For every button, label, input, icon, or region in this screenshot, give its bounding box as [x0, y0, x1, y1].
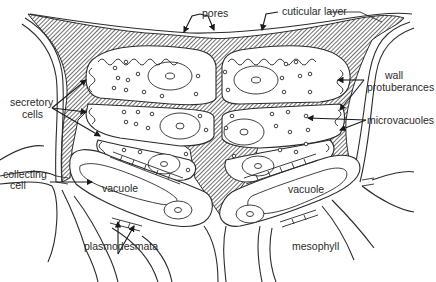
label-mesophyll: mesophyll: [292, 240, 339, 252]
label-wall-line1: wall: [384, 69, 403, 81]
label-secretory-line2: cells: [22, 108, 43, 120]
label-secretory-line1: secretory: [10, 96, 54, 108]
label-collecting-line2: cell: [10, 179, 26, 191]
label-microvacuoles: microvacuoles: [367, 114, 434, 126]
label-wall-line2: protuberances: [367, 81, 434, 93]
label-cuticular-layer: cuticular layer: [282, 5, 347, 17]
secretory-cell-mid-left: [86, 104, 214, 146]
secretory-cell-top-right: [222, 46, 350, 104]
gland-diagram: pores cuticular layer secretory cells wa…: [0, 0, 436, 282]
label-plasmodesmata: plasmodesmata: [84, 240, 158, 252]
label-vacuole-left: vacuole: [102, 182, 138, 194]
label-pores: pores: [202, 7, 228, 19]
label-vacuole-right: vacuole: [288, 183, 324, 195]
